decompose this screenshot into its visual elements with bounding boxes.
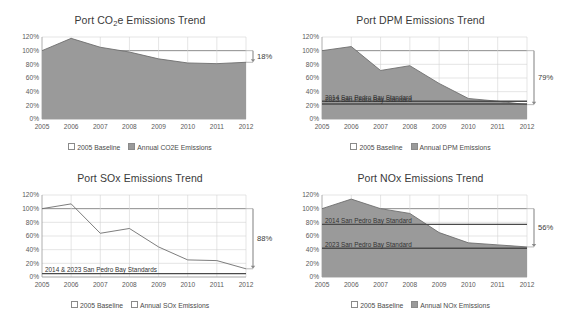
y-axis-tick-label-0%: 0% <box>309 273 319 280</box>
y-axis-tick-label-0%: 0% <box>309 115 319 122</box>
x-axis-tick-label-2011: 2011 <box>491 123 506 130</box>
x-axis-tick-label-2006: 2006 <box>344 123 359 130</box>
standard-label-1-nox: 2023 San Pedro Bay Standard <box>325 241 412 249</box>
x-axis-tick-label-2011: 2011 <box>210 123 225 130</box>
y-axis-tick-label-60%: 60% <box>26 232 39 239</box>
legend-swatch-filled-icon <box>128 143 135 150</box>
y-axis-tick-label-40%: 40% <box>26 88 39 95</box>
x-axis-tick-label-2008: 2008 <box>403 123 418 130</box>
annotation-arrow-head-co2e <box>251 59 255 62</box>
y-axis-tick-label-120%: 120% <box>302 191 319 198</box>
y-axis-tick-label-100%: 100% <box>22 205 39 212</box>
y-axis-tick-label-80%: 80% <box>306 219 319 226</box>
x-axis-tick-label-2009: 2009 <box>151 281 166 288</box>
x-axis-tick-label-2009: 2009 <box>432 123 447 130</box>
y-axis-tick-label-0%: 0% <box>29 115 39 122</box>
x-axis-tick-label-2005: 2005 <box>35 123 50 130</box>
x-axis-tick-label-2011: 2011 <box>210 281 225 288</box>
y-axis-tick-label-80%: 80% <box>306 61 319 68</box>
x-axis-tick-label-2007: 2007 <box>93 123 108 130</box>
plot-area-co2e: 0%20%40%60%80%100%120%18%200520062007200… <box>16 33 278 133</box>
legend-swatch-hollow-icon <box>71 301 78 308</box>
chart-title-co2e-prefix: Port CO <box>75 14 114 26</box>
y-axis-tick-label-20%: 20% <box>26 102 39 109</box>
y-axis-tick-label-60%: 60% <box>26 74 39 81</box>
chart-svg-sox: 0%20%40%60%80%100%120%2014 & 2023 San Pe… <box>16 191 278 291</box>
y-axis-tick-label-60%: 60% <box>306 232 319 239</box>
x-axis-tick-label-2005: 2005 <box>315 123 330 130</box>
chart-title-nox-text: Port NOx Emissions Trend <box>357 172 483 184</box>
chart-title-dpm-text: Port DPM Emissions Trend <box>356 14 484 26</box>
reduction-percent-label-dpm: 79% <box>538 73 553 82</box>
x-axis-tick-label-2010: 2010 <box>180 123 195 130</box>
x-axis-tick-label-2007: 2007 <box>373 281 388 288</box>
legend-swatch-filled-icon <box>411 301 418 308</box>
chart-title-co2e-subscript: 2 <box>113 19 117 28</box>
annotation-arrow-head-nox <box>532 244 536 247</box>
y-axis-tick-label-40%: 40% <box>306 246 319 253</box>
x-axis-tick-label-2008: 2008 <box>403 281 418 288</box>
x-axis-tick-label-2007: 2007 <box>373 123 388 130</box>
chart-panel-nox: Port NOx Emissions Trend 0%20%40%60%80%1… <box>280 158 561 316</box>
legend-swatch-hollow-icon <box>351 301 358 308</box>
legend-label-sox-0: 2005 Baseline <box>80 302 123 309</box>
legend-item-co2e-0[interactable]: 2005 Baseline <box>68 143 120 151</box>
x-axis-tick-label-2006: 2006 <box>64 123 79 130</box>
y-axis-tick-label-120%: 120% <box>22 33 39 40</box>
x-axis-tick-label-2007: 2007 <box>93 281 108 288</box>
legend-item-co2e-1[interactable]: Annual CO2E Emissions <box>128 143 211 151</box>
y-axis-tick-label-20%: 20% <box>26 260 39 267</box>
legend-label-dpm-0: 2005 Baseline <box>359 144 402 151</box>
chart-title-co2e: Port CO2e Emissions Trend <box>0 14 280 26</box>
x-axis-tick-label-2010: 2010 <box>461 281 476 288</box>
y-axis-tick-label-40%: 40% <box>306 88 319 95</box>
x-axis-tick-label-2010: 2010 <box>180 281 195 288</box>
x-axis-tick-label-2012: 2012 <box>520 281 535 288</box>
x-axis-tick-label-2012: 2012 <box>520 123 535 130</box>
legend-label-co2e-1: Annual CO2E Emissions <box>137 144 211 151</box>
annotation-arrow-head-dpm <box>532 102 536 105</box>
legend-item-sox-0[interactable]: 2005 Baseline <box>71 301 123 309</box>
chart-svg-nox: 0%20%40%60%80%100%120%2014 San Pedro Bay… <box>296 191 559 291</box>
data-area-nox <box>322 199 527 277</box>
y-axis-tick-label-100%: 100% <box>302 47 319 54</box>
y-axis-tick-label-60%: 60% <box>306 74 319 81</box>
chart-title-nox: Port NOx Emissions Trend <box>280 172 561 184</box>
chart-svg-co2e: 0%20%40%60%80%100%120%18%200520062007200… <box>16 33 278 133</box>
x-axis-tick-label-2008: 2008 <box>122 281 137 288</box>
chart-title-sox-text: Port SOx Emissions Trend <box>77 172 203 184</box>
x-axis-tick-label-2009: 2009 <box>151 123 166 130</box>
legend-item-dpm-0[interactable]: 2005 Baseline <box>350 143 402 151</box>
legend-item-nox-1[interactable]: Annual NOx Emissions <box>411 301 490 309</box>
chart-panel-dpm: Port DPM Emissions Trend 0%20%40%60%80%1… <box>280 0 561 158</box>
chart-title-sox: Port SOx Emissions Trend <box>0 172 280 184</box>
reduction-percent-label-co2e: 18% <box>257 52 272 61</box>
legend-label-dpm-1: Annual DPM Emissions <box>420 144 491 151</box>
x-axis-tick-label-2009: 2009 <box>432 281 447 288</box>
chart-legend-sox: 2005 BaselineAnnual SOx Emissions <box>0 301 280 309</box>
y-axis-tick-label-80%: 80% <box>26 61 39 68</box>
legend-swatch-hollow-icon <box>350 143 357 150</box>
standard-label-0-nox: 2014 San Pedro Bay Standard <box>325 217 412 225</box>
x-axis-tick-label-2012: 2012 <box>239 123 254 130</box>
x-axis-tick-label-2005: 2005 <box>315 281 330 288</box>
reduction-percent-label-sox: 88% <box>257 234 272 243</box>
plot-area-nox: 0%20%40%60%80%100%120%2014 San Pedro Bay… <box>296 191 559 291</box>
y-axis-tick-label-0%: 0% <box>29 273 39 280</box>
legend-label-nox-1: Annual NOx Emissions <box>420 302 490 309</box>
standard-label-0-sox: 2014 & 2023 San Pedro Bay Standards <box>45 266 157 274</box>
legend-swatch-hollow-icon <box>68 143 75 150</box>
annotation-arrow-head-sox <box>251 266 255 269</box>
x-axis-tick-label-2012: 2012 <box>239 281 254 288</box>
legend-item-dpm-1[interactable]: Annual DPM Emissions <box>411 143 491 151</box>
chart-legend-nox: 2005 BaselineAnnual NOx Emissions <box>280 301 561 309</box>
chart-title-co2e-suffix: e Emissions Trend <box>117 14 205 26</box>
y-axis-tick-label-100%: 100% <box>302 205 319 212</box>
chart-svg-dpm: 0%20%40%60%80%100%120%2014 San Pedro Bay… <box>296 33 559 133</box>
standard-label-1-dpm: 2023 San Pedro Bay Standard <box>325 96 412 104</box>
legend-item-sox-1[interactable]: Annual SOx Emissions <box>131 301 209 309</box>
legend-item-nox-0[interactable]: 2005 Baseline <box>351 301 403 309</box>
legend-label-co2e-0: 2005 Baseline <box>77 144 120 151</box>
y-axis-tick-label-40%: 40% <box>26 246 39 253</box>
y-axis-tick-label-20%: 20% <box>306 102 319 109</box>
